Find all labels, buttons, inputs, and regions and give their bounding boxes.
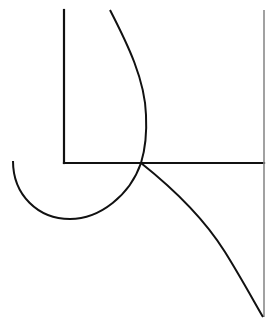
descending-curve [141,163,263,317]
upper-curve [110,10,146,163]
diagram-figure [0,0,269,331]
lower-arc [13,161,141,219]
diagram-canvas [0,0,269,331]
